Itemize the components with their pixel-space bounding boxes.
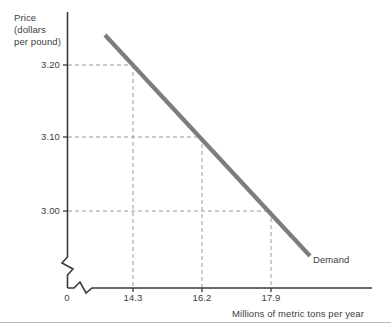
demand-curve-line <box>105 35 310 256</box>
origin-label: 0 <box>47 292 87 304</box>
y-axis-line <box>62 12 73 288</box>
y-axis-title: Price (dollars per pound) <box>14 12 61 48</box>
x-tick-label-14-3: 14.3 <box>113 292 153 304</box>
y-axis-title-line-3: per pound) <box>14 36 61 48</box>
bottom-divider <box>0 322 391 323</box>
y-axis-title-line-2: (dollars <box>14 24 61 36</box>
x-axis-title: Millions of metric tons per year <box>232 308 364 320</box>
demand-curve-chart: Price (dollars per pound) 3.20 3.10 3.00… <box>0 0 391 329</box>
y-tick-label-3-20: 3.20 <box>20 59 60 71</box>
x-tick-label-17-9: 17.9 <box>251 292 291 304</box>
demand-series-label: Demand <box>313 254 350 266</box>
chart-canvas <box>0 0 391 329</box>
y-axis-title-line-1: Price <box>14 12 61 24</box>
x-tick-label-16-2: 16.2 <box>182 292 222 304</box>
y-tick-label-3-00: 3.00 <box>20 205 60 217</box>
y-tick-label-3-10: 3.10 <box>20 131 60 143</box>
